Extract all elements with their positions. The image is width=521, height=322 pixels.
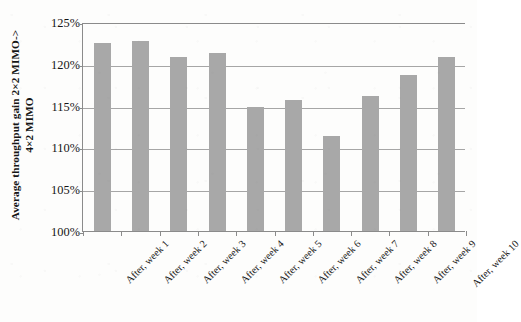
- bar-6: [285, 100, 302, 231]
- y-tick-label-110: 110%: [40, 142, 80, 154]
- y-tick-mark-125: [78, 24, 83, 25]
- bar-3: [170, 57, 187, 231]
- y-tick-mark-105: [78, 191, 83, 192]
- y-axis-tick-labels: 100%105%110%115%120%125%: [40, 0, 80, 322]
- y-tick-label-115: 115%: [40, 101, 80, 113]
- y-axis-title: Average throughput gain 2×2 MIMO-> 4×2 M…: [0, 0, 44, 250]
- bar-7: [323, 136, 340, 231]
- bar-10: [438, 57, 455, 231]
- bar-8: [362, 96, 379, 231]
- y-axis-title-line-1: Average throughput gain 2×2 MIMO->: [9, 30, 21, 220]
- y-tick-label-105: 105%: [40, 184, 80, 196]
- y-axis-title-line-2: 4×2 MIMO: [22, 30, 36, 220]
- bar-1: [94, 43, 111, 231]
- y-tick-label-100: 100%: [40, 226, 80, 238]
- bar-5: [247, 107, 264, 231]
- x-axis-tick-labels: After, week 1After, week 2After, week 3A…: [82, 232, 482, 322]
- y-tick-mark-115: [78, 108, 83, 109]
- y-tick-label-125: 125%: [40, 17, 80, 29]
- bar-9: [400, 75, 417, 231]
- plot-area: [82, 23, 465, 232]
- y-tick-label-120: 120%: [40, 59, 80, 71]
- bar-2: [132, 41, 149, 231]
- bar-4: [209, 53, 226, 231]
- y-axis-title-text: Average throughput gain 2×2 MIMO-> 4×2 M…: [8, 30, 36, 220]
- y-tick-mark-120: [78, 66, 83, 67]
- y-tick-mark-110: [78, 149, 83, 150]
